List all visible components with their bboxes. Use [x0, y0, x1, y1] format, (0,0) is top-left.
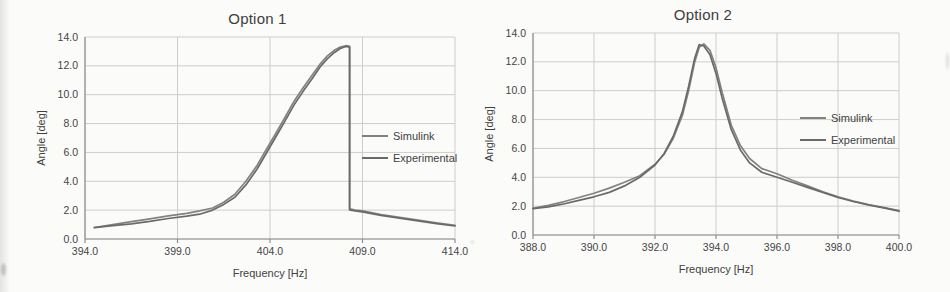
x-tick-label: 398.0 — [825, 241, 851, 253]
chart-option-1: Option 1 394.0399.0404.0409.0414.00.02.0… — [0, 0, 475, 292]
x-axis-title: Frequency [Hz] — [233, 267, 308, 279]
y-tick-label: 10.0 — [58, 88, 79, 100]
x-tick-label: 394.0 — [703, 241, 729, 253]
scan-artifact — [1, 263, 6, 276]
x-axis-title: Frequency [Hz] — [679, 263, 754, 275]
x-tick-label: 404.0 — [257, 245, 283, 257]
y-tick-label: 6.0 — [63, 146, 78, 158]
y-tick-label: 12.0 — [58, 59, 79, 71]
legend-label: Simulink — [831, 112, 873, 124]
legend: Simulink Experimental — [800, 107, 895, 151]
y-tick-label: 4.0 — [511, 171, 526, 183]
y-tick-label: 12.0 — [506, 55, 527, 67]
y-tick-label: 0.0 — [63, 233, 78, 245]
y-tick-label: 10.0 — [506, 84, 527, 96]
legend-item-simulink: Simulink — [800, 107, 895, 129]
y-tick-label: 4.0 — [63, 175, 78, 187]
y-tick-label: 0.0 — [511, 229, 526, 241]
x-tick-label: 396.0 — [764, 241, 790, 253]
x-tick-label: 394.0 — [72, 245, 98, 257]
experimental-line-swatch — [800, 139, 826, 141]
x-tick-label: 400.0 — [886, 241, 912, 253]
legend-label: Experimental — [831, 134, 895, 146]
scan-artifact — [946, 52, 949, 70]
y-tick-label: 2.0 — [63, 204, 78, 216]
x-tick-label: 392.0 — [642, 241, 668, 253]
chart-option-2: Option 2 388.0390.0392.0394.0396.0398.04… — [475, 0, 950, 292]
y-tick-label: 14.0 — [506, 27, 527, 39]
simulink-line-swatch — [800, 117, 826, 119]
x-tick-label: 399.0 — [164, 245, 190, 257]
x-tick-label: 414.0 — [442, 245, 468, 257]
y-tick-label: 8.0 — [511, 113, 526, 125]
legend: Simulink Experimental — [362, 125, 457, 169]
legend-item-experimental: Experimental — [800, 129, 895, 151]
legend-label: Simulink — [393, 130, 435, 142]
y-tick-label: 2.0 — [511, 200, 526, 212]
y-tick-label: 8.0 — [63, 117, 78, 129]
x-tick-label: 390.0 — [581, 241, 607, 253]
y-axis-title: Angle [deg] — [483, 106, 495, 162]
legend-item-experimental: Experimental — [362, 147, 457, 169]
experimental-line-swatch — [362, 157, 388, 159]
y-axis-title: Angle [deg] — [35, 110, 47, 166]
y-tick-label: 6.0 — [511, 142, 526, 154]
legend-item-simulink: Simulink — [362, 125, 457, 147]
x-tick-label: 388.0 — [520, 241, 546, 253]
y-tick-label: 14.0 — [58, 31, 79, 43]
legend-label: Experimental — [393, 152, 457, 164]
x-tick-label: 409.0 — [349, 245, 375, 257]
simulink-line-swatch — [362, 135, 388, 137]
scan-artifact — [470, 240, 474, 244]
scanned-figure-page: Option 1 394.0399.0404.0409.0414.00.02.0… — [0, 0, 950, 292]
